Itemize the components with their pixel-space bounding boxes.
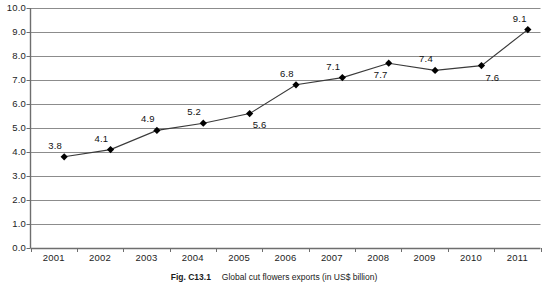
data-point-marker [385,60,392,67]
data-series-line [64,30,528,157]
x-axis-tick-label: 2010 [448,252,494,263]
y-axis-tick-label: 1.0 [0,219,26,229]
chart-plot-area: 10.09.08.07.06.05.04.03.02.01.00.0 20012… [0,0,548,262]
data-point-markers-group [61,26,532,160]
figure-container: 10.09.08.07.06.05.04.03.02.01.00.0 20012… [0,0,548,286]
data-point-label: 7.6 [485,73,499,83]
x-axis-tick-label: 2009 [402,252,448,263]
data-point-marker [61,153,68,160]
x-axis-tick-label: 2001 [31,252,77,263]
data-point-label: 5.2 [187,107,201,117]
data-point-label: 7.4 [419,54,433,64]
data-point-marker [200,120,207,127]
data-point-label: 4.1 [95,134,109,144]
x-axis-tick-label: 2011 [494,252,540,263]
x-axis-tick-label: 2002 [77,252,123,263]
figure-caption: Fig. C13.1Global cut flowers exports (in… [0,272,548,283]
data-point-label: 4.9 [141,114,155,124]
data-point-label: 9.1 [513,14,527,24]
y-axis-tick-label: 3.0 [0,171,26,181]
data-point-marker [292,81,299,88]
y-axis-tick-label: 10.0 [0,3,26,13]
x-axis-tick-label: 2008 [355,252,401,263]
data-point-label: 7.1 [326,62,340,72]
x-axis-tick-label: 2003 [123,252,169,263]
x-axis-tick-label: 2005 [216,252,262,263]
data-point-marker [246,110,253,117]
y-axis-tick-label: 2.0 [0,195,26,205]
y-axis-tick-label: 5.0 [0,123,26,133]
data-point-marker [153,127,160,134]
y-axis-tick-label: 9.0 [0,27,26,37]
y-axis-tick-label: 0.0 [0,243,26,253]
x-axis-tick-label: 2006 [263,252,309,263]
data-point-label: 5.6 [253,120,267,130]
x-axis-tick-label: 2007 [309,252,355,263]
x-axis-tick-label: 2004 [170,252,216,263]
data-point-marker [431,67,438,74]
line-chart-svg [0,0,548,262]
y-axis-tick-label: 4.0 [0,147,26,157]
data-point-label: 3.8 [48,141,62,151]
gridlines-group [27,9,541,249]
data-point-label: 7.7 [374,70,388,80]
figure-caption-id: Fig. C13.1 [171,272,211,282]
data-point-label: 6.8 [280,69,294,79]
y-axis-tick-label: 7.0 [0,75,26,85]
y-axis-tick-label: 6.0 [0,99,26,109]
y-axis-tick-label: 8.0 [0,51,26,61]
figure-caption-text: Global cut flowers exports (in US$ billi… [222,272,377,282]
